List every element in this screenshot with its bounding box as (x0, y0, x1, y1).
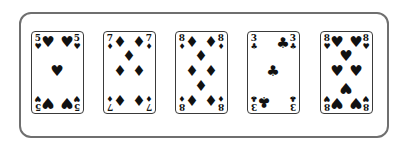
card-index-bottom-right: 3♣ (289, 95, 297, 111)
card-5-hearts[interactable]: 5♥ 5♥ 5♥ 5♥ ♥ ♥ ♥ ♥ ♥ (31, 31, 84, 114)
card-3-clubs[interactable]: 3♣ 3♣ 3♣ 3♣ ♣ ♣ ♣ (247, 31, 300, 114)
club-icon: ♣ (250, 42, 258, 50)
card-7-diamonds[interactable]: 7♦ 7♦ 7♦ 7♦ ♦ ♦ ♦ ♦ ♦ ♦ ♦ (103, 31, 156, 114)
heart-icon: ♥ (59, 35, 75, 51)
club-icon: ♣ (275, 36, 291, 52)
heart-icon: ♥ (338, 79, 354, 95)
heart-icon: ♥ (329, 64, 345, 80)
diamond-icon: ♦ (112, 94, 128, 110)
diamond-icon: ♦ (131, 94, 147, 110)
heart-icon: ♥ (348, 64, 364, 80)
heart-icon: ♥ (40, 94, 56, 110)
club-icon: ♣ (265, 64, 281, 80)
card-8-hearts[interactable]: 8♥ 8♥ 8♥ 8♥ ♥ ♥ ♥ ♥ ♥ ♥ ♥ ♥ (320, 31, 373, 114)
club-icon: ♣ (289, 95, 297, 103)
card-index-top-left: 3♣ (250, 34, 258, 50)
club-icon: ♣ (256, 93, 272, 109)
heart-icon: ♥ (329, 94, 345, 110)
card-8-diamonds[interactable]: 8♦ 8♦ 8♦ 8♦ ♦ ♦ ♦ ♦ ♦ ♦ ♦ ♦ (175, 31, 228, 114)
heart-icon: ♥ (40, 35, 56, 51)
diamond-icon: ♦ (112, 64, 128, 80)
diamond-icon: ♦ (203, 94, 219, 110)
heart-icon: ♥ (348, 94, 364, 110)
diamond-icon: ♦ (131, 64, 147, 80)
heart-icon: ♥ (49, 64, 65, 80)
heart-icon: ♥ (59, 94, 75, 110)
diamond-icon: ♦ (184, 94, 200, 110)
